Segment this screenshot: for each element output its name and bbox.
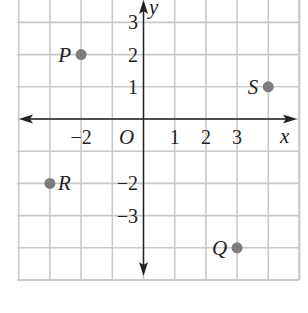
point-label-p: P (57, 43, 71, 67)
point-p (76, 49, 87, 60)
point-s (263, 81, 274, 92)
x-tick-label: 3 (232, 126, 242, 148)
point-r (44, 178, 55, 189)
point-label-s: S (248, 75, 259, 99)
coordinate-plane: xyO−2123321−2−3 PSRQ (0, 0, 308, 313)
y-tick-label: 2 (128, 44, 138, 66)
point-q (232, 242, 243, 253)
origin-label: O (119, 125, 134, 149)
x-tick-label: 2 (201, 126, 211, 148)
x-tick-label: −2 (70, 126, 91, 148)
tick-labels: xyO−2123321−2−3 (70, 0, 290, 227)
point-label-r: R (57, 171, 71, 195)
y-axis-label: y (147, 0, 159, 19)
point-label-q: Q (212, 236, 227, 260)
x-tick-label: 1 (170, 126, 180, 148)
axes (19, 0, 297, 276)
y-tick-label: −3 (117, 205, 138, 227)
y-tick-label: 3 (128, 11, 138, 33)
y-tick-label: −2 (117, 172, 138, 194)
y-tick-label: 1 (128, 76, 138, 98)
x-axis-label: x (279, 124, 290, 148)
